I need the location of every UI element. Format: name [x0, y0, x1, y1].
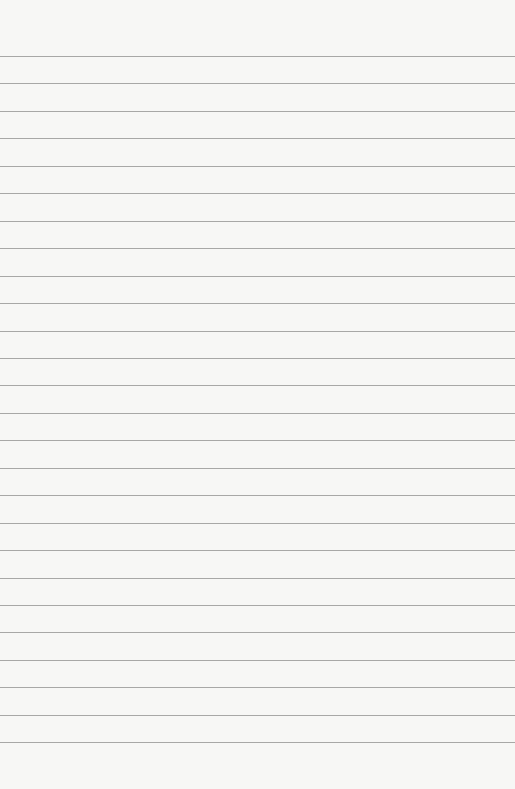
ruled-line	[0, 166, 515, 167]
ruled-line	[0, 193, 515, 194]
ruled-line	[0, 495, 515, 496]
ruled-line	[0, 248, 515, 249]
ruled-line	[0, 138, 515, 139]
ruled-line	[0, 385, 515, 386]
ruled-line	[0, 687, 515, 688]
ruled-line	[0, 83, 515, 84]
ruled-line	[0, 550, 515, 551]
ruled-line	[0, 632, 515, 633]
ruled-line	[0, 358, 515, 359]
ruled-line	[0, 331, 515, 332]
ruled-line	[0, 221, 515, 222]
ruled-line	[0, 605, 515, 606]
ruled-line	[0, 523, 515, 524]
ruled-line	[0, 111, 515, 112]
lined-paper	[0, 0, 515, 789]
ruled-line	[0, 413, 515, 414]
ruled-line	[0, 276, 515, 277]
ruled-line	[0, 303, 515, 304]
ruled-line	[0, 742, 515, 743]
ruled-line	[0, 56, 515, 57]
ruled-line	[0, 660, 515, 661]
ruled-line	[0, 578, 515, 579]
ruled-line	[0, 468, 515, 469]
ruled-line	[0, 715, 515, 716]
ruled-line	[0, 440, 515, 441]
